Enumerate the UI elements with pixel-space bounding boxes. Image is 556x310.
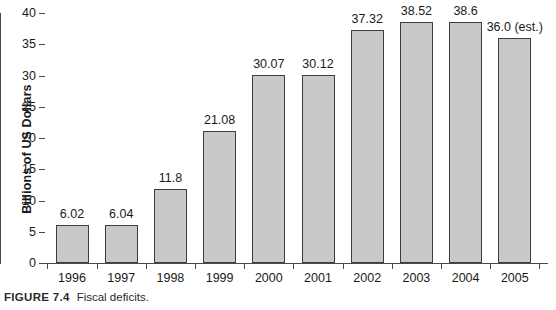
x-axis-tick [146,264,147,269]
x-axis-tick [441,264,442,269]
y-axis-tick-label: 20 [0,131,36,145]
y-axis-tick-label: 10 [0,194,36,208]
y-axis-tick [39,107,45,108]
caption-label: FIGURE 7.4 [4,291,70,303]
bar[interactable] [203,131,236,263]
x-axis-tick [293,264,294,269]
bar-value-label: 38.6 [406,5,526,18]
y-axis-tick-label: 15 [0,162,36,176]
y-axis-tick [39,232,45,233]
caption-text: Fiscal deficits. [77,291,149,303]
x-axis-tick [490,264,491,269]
x-axis-tick [539,264,540,269]
y-axis-tick [39,169,45,170]
y-axis-tick [39,201,45,202]
bar[interactable] [56,225,89,263]
x-axis-tick [244,264,245,269]
y-axis-tick-label: 30 [0,69,36,83]
figure-container: Billions of US Dollars 0510152025303540 … [0,0,556,310]
x-axis-tick [343,264,344,269]
x-axis-tick [195,264,196,269]
bar[interactable] [302,75,335,263]
y-axis-tick [39,44,45,45]
bar[interactable] [449,22,482,263]
x-axis-tick [97,264,98,269]
x-axis-tick-label: 2005 [485,271,545,285]
y-axis-tick [39,263,45,264]
x-axis-tick [47,264,48,269]
y-axis-tick-label: 25 [0,100,36,114]
bar[interactable] [498,38,531,263]
bar[interactable] [252,75,285,263]
y-axis-tick-label: 0 [0,256,36,270]
y-axis-tick-label: 35 [0,37,36,51]
bar[interactable] [351,30,384,263]
bar[interactable] [154,189,187,263]
x-axis-line [45,263,548,264]
bar[interactable] [400,22,433,263]
y-axis-tick [39,13,45,14]
x-axis-tick [392,264,393,269]
y-axis-tick-label: 40 [0,6,36,20]
y-axis-tick-label: 5 [0,225,36,239]
y-axis-tick [39,138,45,139]
bar[interactable] [105,225,138,263]
y-axis-tick [39,76,45,77]
bar-value-label: 36.0 (est.) [455,21,556,34]
figure-caption: FIGURE 7.4Fiscal deficits. [4,291,149,303]
